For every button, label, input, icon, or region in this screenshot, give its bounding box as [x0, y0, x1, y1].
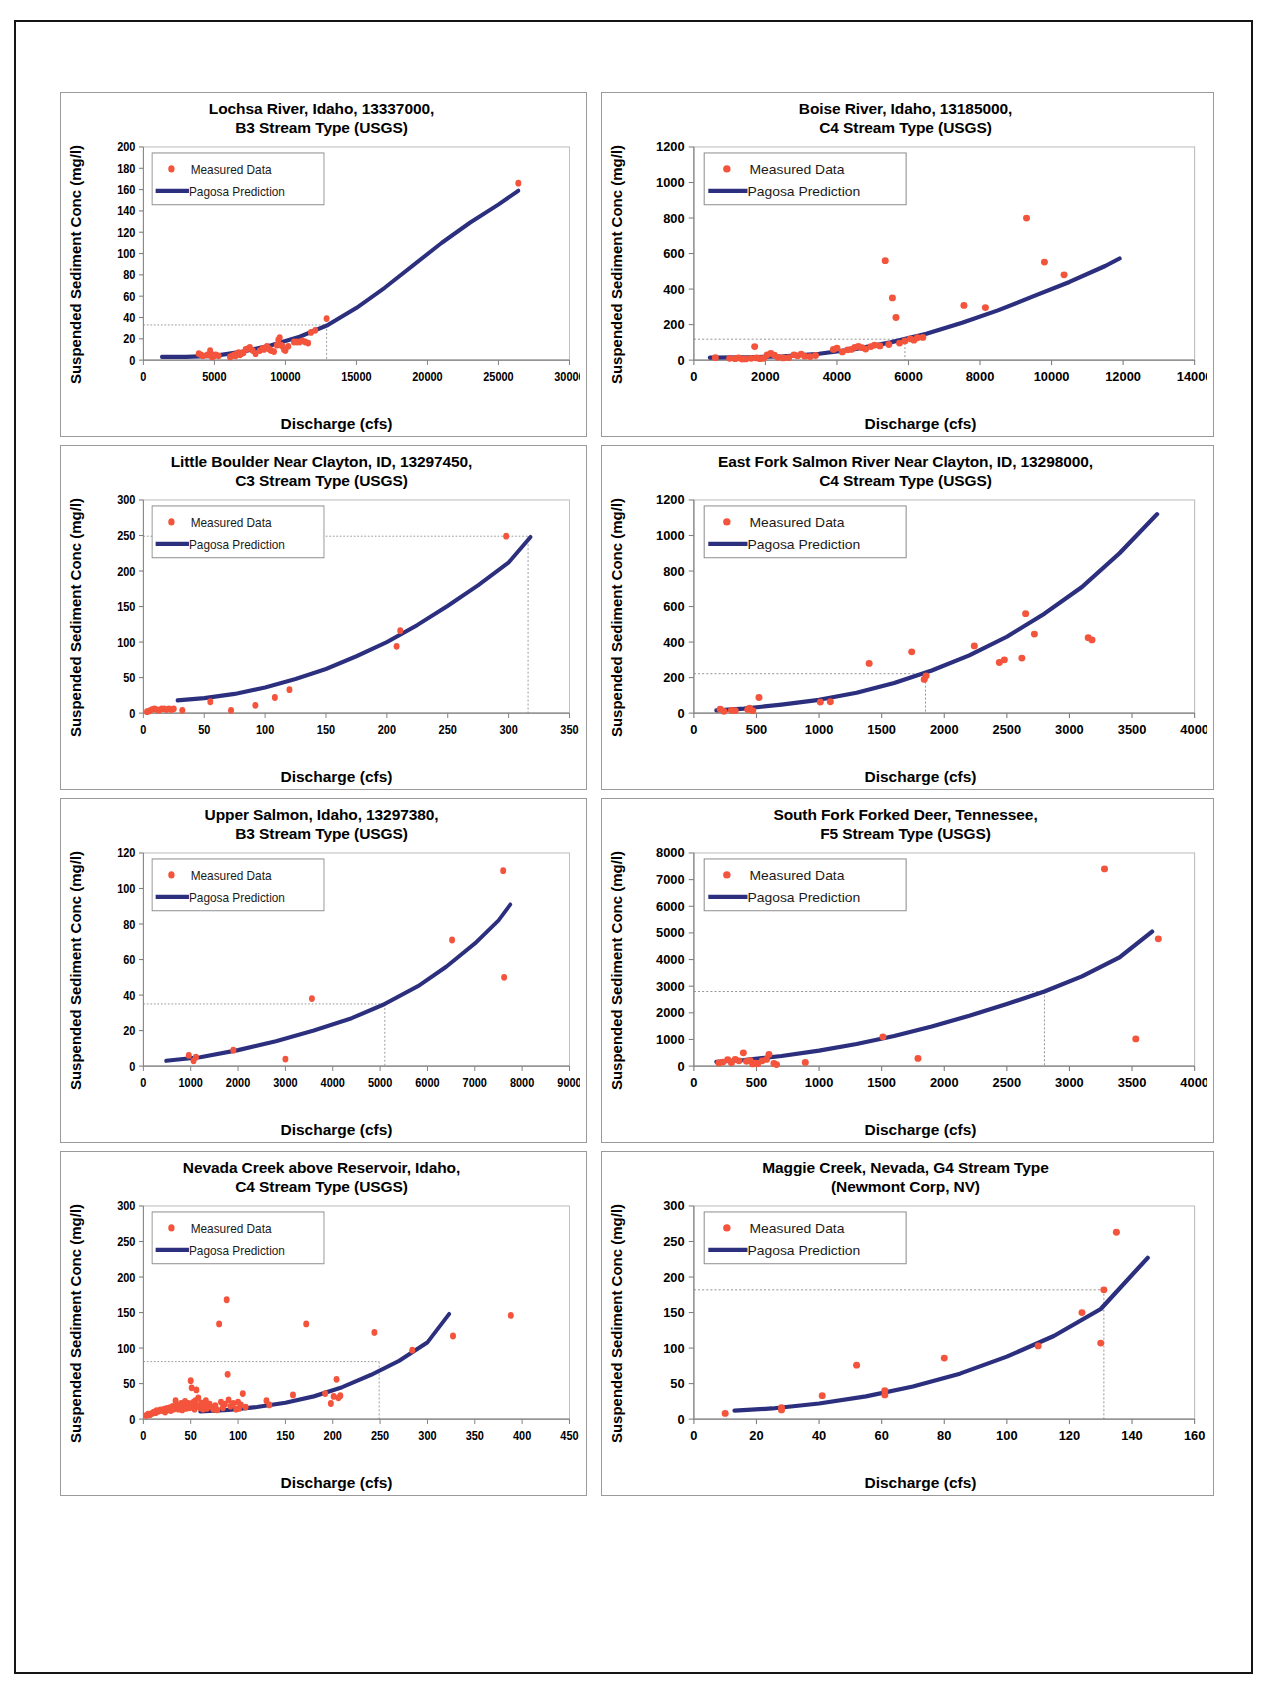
y-tick-label: 120 — [117, 225, 136, 239]
y-tick-label: 0 — [129, 1059, 136, 1073]
chart-title-line2: (Newmont Corp, NV) — [602, 1177, 1209, 1196]
chart-title: Nevada Creek above Reservoir, Idaho,C4 S… — [61, 1158, 582, 1196]
x-tick-label: 14000 — [1177, 370, 1207, 384]
x-tick-label: 250 — [371, 1428, 390, 1442]
x-axis-label: Discharge (cfs) — [632, 1474, 1209, 1492]
y-axis-label: Suspended Sediment Conc (mg/l) — [604, 93, 630, 436]
x-tick-label: 2000 — [751, 370, 780, 384]
x-tick-label: 4000 — [1180, 1076, 1207, 1090]
x-tick-label: 200 — [324, 1428, 343, 1442]
x-tick-label: 3500 — [1118, 1076, 1147, 1090]
x-tick-label: 4000 — [823, 370, 852, 384]
x-tick-label: 120 — [1059, 1429, 1080, 1443]
x-tick-label: 100 — [256, 722, 275, 736]
x-tick-label: 2500 — [993, 1076, 1022, 1090]
plot-area: 0204060801001200100020003000400050006000… — [89, 847, 580, 1096]
document-frame: Lochsa River, Idaho, 13337000,B3 Stream … — [14, 20, 1253, 1674]
x-tick-label: 25000 — [483, 369, 514, 383]
chart-title-line1: Maggie Creek, Nevada, G4 Stream Type — [762, 1159, 1048, 1176]
y-tick-label: 180 — [117, 161, 136, 175]
legend-measured-marker — [168, 165, 174, 172]
x-tick-label: 100 — [229, 1428, 248, 1442]
x-tick-label: 0 — [140, 722, 147, 736]
legend-label-measured: Measured Data — [191, 1221, 273, 1236]
legend-label-prediction: Pagosa Prediction — [747, 537, 860, 552]
chart-panel-2: Little Boulder Near Clayton, ID, 1329745… — [60, 445, 587, 790]
plot-area: 050100150200250300020406080100120140160M… — [630, 1200, 1207, 1449]
x-axis-label: Discharge (cfs) — [632, 768, 1209, 786]
prediction-line — [166, 904, 510, 1060]
y-tick-label: 60 — [123, 952, 136, 966]
y-tick-label: 2000 — [656, 1007, 685, 1021]
y-tick-label: 100 — [663, 1342, 684, 1356]
y-tick-label: 0 — [677, 354, 684, 368]
x-tick-label: 350 — [560, 722, 579, 736]
plot-area: 0200400600800100012000200040006000800010… — [630, 141, 1207, 390]
legend-measured-marker — [168, 518, 174, 525]
legend-label-prediction: Pagosa Prediction — [189, 890, 285, 905]
legend-label-prediction: Pagosa Prediction — [189, 537, 285, 552]
y-tick-label: 80 — [123, 917, 136, 931]
chart-panel-7: Maggie Creek, Nevada, G4 Stream Type(New… — [601, 1151, 1214, 1496]
y-tick-label: 250 — [117, 528, 136, 542]
y-tick-label: 200 — [117, 141, 136, 154]
y-axis-label-text: Suspended Sediment Conc (mg/l) — [68, 851, 85, 1090]
y-tick-label: 150 — [117, 1305, 136, 1319]
y-axis-label-text: Suspended Sediment Conc (mg/l) — [68, 1204, 85, 1443]
y-tick-label: 1000 — [656, 176, 685, 190]
legend-label-prediction: Pagosa Prediction — [189, 184, 285, 199]
x-axis-label: Discharge (cfs) — [91, 768, 582, 786]
plot-area: 0200400600800100012000500100015002000250… — [630, 494, 1207, 743]
x-tick-label: 3000 — [1055, 723, 1084, 737]
y-tick-label: 0 — [677, 707, 684, 721]
y-tick-label: 100 — [117, 635, 136, 649]
x-tick-label: 150 — [317, 722, 336, 736]
y-tick-label: 4000 — [656, 953, 685, 967]
figure-page: Lochsa River, Idaho, 13337000,B3 Stream … — [0, 0, 1279, 1694]
x-tick-label: 7000 — [463, 1075, 488, 1089]
x-tick-label: 450 — [560, 1428, 579, 1442]
y-tick-label: 80 — [123, 268, 136, 282]
y-axis-label-text: Suspended Sediment Conc (mg/l) — [609, 851, 626, 1090]
x-tick-label: 300 — [418, 1428, 437, 1442]
y-axis-label-text: Suspended Sediment Conc (mg/l) — [609, 498, 626, 737]
y-tick-label: 0 — [129, 1412, 136, 1426]
y-axis-label-text: Suspended Sediment Conc (mg/l) — [68, 498, 85, 737]
x-tick-label: 2500 — [993, 723, 1022, 737]
x-tick-label: 5000 — [368, 1075, 393, 1089]
measured-points — [143, 1296, 514, 1419]
x-tick-label: 20000 — [412, 369, 443, 383]
x-tick-label: 300 — [499, 722, 518, 736]
x-tick-label: 0 — [690, 1076, 697, 1090]
y-axis-label: Suspended Sediment Conc (mg/l) — [604, 1152, 630, 1495]
x-tick-label: 2000 — [930, 1076, 959, 1090]
y-tick-label: 100 — [117, 1341, 136, 1355]
y-axis-label: Suspended Sediment Conc (mg/l) — [604, 446, 630, 789]
x-tick-label: 50 — [198, 722, 211, 736]
legend-measured-marker — [723, 518, 730, 525]
x-tick-label: 2000 — [930, 723, 959, 737]
chart-title-line1: Nevada Creek above Reservoir, Idaho, — [183, 1159, 460, 1176]
y-tick-label: 50 — [123, 1376, 136, 1390]
legend-measured-marker — [723, 1224, 730, 1231]
x-tick-label: 15000 — [341, 369, 372, 383]
y-tick-label: 100 — [117, 881, 136, 895]
x-tick-label: 0 — [140, 1075, 147, 1089]
legend-label-measured: Measured Data — [191, 162, 273, 177]
chart-title-line1: South Fork Forked Deer, Tennessee, — [773, 806, 1037, 823]
chart-title: Boise River, Idaho, 13185000,C4 Stream T… — [602, 99, 1209, 137]
y-tick-label: 6000 — [656, 900, 685, 914]
chart-title-line1: Boise River, Idaho, 13185000, — [799, 100, 1012, 117]
y-tick-label: 800 — [663, 212, 684, 226]
chart-title: South Fork Forked Deer, Tennessee,F5 Str… — [602, 805, 1209, 843]
chart-title-line1: Upper Salmon, Idaho, 13297380, — [205, 806, 439, 823]
y-tick-label: 0 — [129, 706, 136, 720]
x-tick-label: 3000 — [1055, 1076, 1084, 1090]
x-tick-label: 2000 — [226, 1075, 251, 1089]
measured-points — [196, 180, 522, 360]
chart-title-line1: Lochsa River, Idaho, 13337000, — [209, 100, 434, 117]
y-tick-label: 200 — [663, 671, 684, 685]
y-axis-label-text: Suspended Sediment Conc (mg/l) — [68, 145, 85, 384]
x-tick-label: 1500 — [867, 723, 896, 737]
chart-title-line1: East Fork Salmon River Near Clayton, ID,… — [718, 453, 1093, 470]
